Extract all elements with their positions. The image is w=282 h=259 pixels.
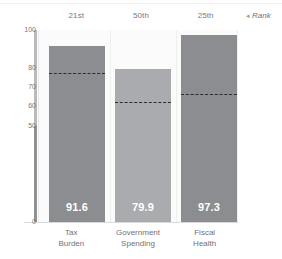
rank-header-row: 21st 50th 25th: [44, 8, 238, 24]
bars-layer: 91.6 79.9 97.3: [38, 30, 238, 222]
category-line: Tax: [38, 228, 105, 239]
rank-label-government-spending: 50th: [109, 8, 174, 24]
rank-line-tax-burden: [49, 73, 105, 74]
bar-fiscal-health[interactable]: 97.3: [181, 35, 237, 222]
bar-value-tax-burden: 91.6: [49, 201, 105, 213]
bar-value-fiscal-health: 97.3: [181, 201, 237, 213]
rank-line-fiscal-health: [181, 94, 237, 95]
y-tick-80: 80: [8, 63, 36, 73]
bar-column-fiscal-health: 97.3: [181, 30, 237, 222]
y-tick-70: 70: [8, 82, 36, 92]
rank-pointer-icon: ◂: [246, 12, 250, 19]
y-tick-0: 0: [8, 217, 36, 227]
x-axis-baseline: [24, 222, 238, 223]
top-divider: [0, 3, 282, 4]
bar-column-tax-burden: 91.6: [49, 30, 105, 222]
category-line: Fiscal: [171, 228, 238, 239]
y-axis-spine-upper: [34, 30, 37, 126]
category-line: Burden: [38, 239, 105, 250]
rank-label-fiscal-health: 25th: [173, 8, 238, 24]
rank-label-tax-burden: 21st: [44, 8, 109, 24]
bar-government-spending[interactable]: 79.9: [115, 69, 171, 222]
bar-value-government-spending: 79.9: [115, 201, 171, 213]
y-tick-100: 100: [8, 25, 36, 35]
category-line: Government: [105, 228, 172, 239]
category-line: Spending: [105, 239, 172, 250]
y-tick-50: 50: [8, 121, 36, 131]
rank-legend: ◂ Rank: [246, 9, 271, 23]
category-label-tax-burden: Tax Burden: [38, 228, 105, 249]
score-rank-bar-chart: 21st 50th 25th ◂ Rank 100 80 70 60 50 0 …: [0, 0, 282, 259]
rank-legend-label: Rank: [252, 12, 271, 20]
y-tick-60: 60: [8, 101, 36, 111]
bar-column-government-spending: 79.9: [115, 30, 171, 222]
category-line: Health: [171, 239, 238, 250]
rank-line-government-spending: [115, 102, 171, 103]
category-labels: Tax Burden Government Spending Fiscal He…: [38, 228, 238, 249]
category-label-government-spending: Government Spending: [105, 228, 172, 249]
category-label-fiscal-health: Fiscal Health: [171, 228, 238, 249]
